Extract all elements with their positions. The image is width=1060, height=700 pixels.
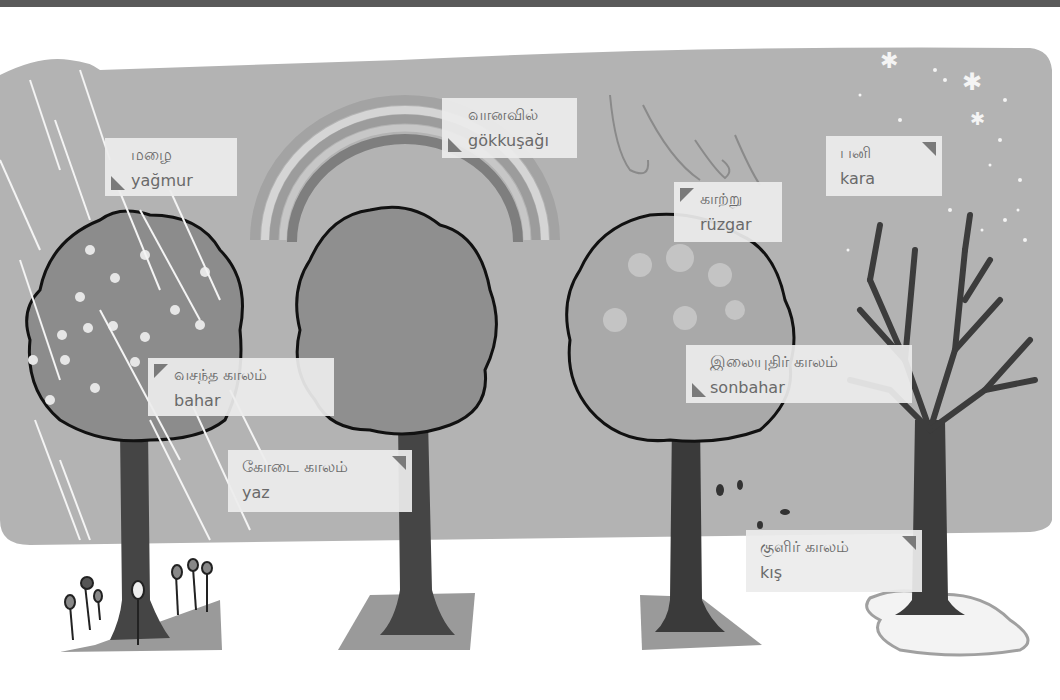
svg-text:✱: ✱	[962, 68, 982, 96]
label-pointer-top-right-icon	[392, 456, 406, 470]
label-pointer-bottom-left-icon	[692, 383, 706, 397]
label-tamil: வானவில்	[468, 102, 565, 128]
label-summer: கோடை காலம் yaz	[228, 450, 412, 512]
label-autumn: இலையுதிர் காலம் sonbahar	[686, 345, 912, 403]
label-pointer-bottom-left-icon	[111, 176, 125, 190]
label-tamil: காற்று	[700, 186, 770, 212]
label-wind: காற்று rüzgar	[674, 182, 782, 242]
label-tamil: வசந்த காலம்	[174, 362, 322, 388]
label-turkish: yaz	[242, 480, 400, 506]
label-snow: பனி kara	[826, 136, 942, 196]
label-pointer-top-left-icon	[154, 364, 168, 378]
label-tamil: குளிர் காலம்	[760, 534, 910, 560]
svg-text:✱: ✱	[880, 48, 898, 73]
label-tamil: கோடை காலம்	[242, 454, 400, 480]
canopy-autumn	[567, 214, 794, 441]
label-turkish: kara	[840, 166, 930, 192]
label-pointer-top-left-icon	[680, 188, 694, 202]
label-winter: குளிர் காலம் kış	[746, 530, 922, 592]
label-pointer-top-right-icon	[922, 142, 936, 156]
label-rain: மழை yağmur	[105, 138, 237, 196]
svg-text:✱: ✱	[970, 108, 985, 129]
label-tamil: பனி	[840, 140, 930, 166]
label-pointer-bottom-left-icon	[448, 138, 462, 152]
label-tamil: மழை	[131, 142, 225, 168]
label-turkish: sonbahar	[710, 375, 900, 401]
label-turkish: rüzgar	[700, 212, 770, 238]
label-rainbow: வானவில் gökkuşağı	[442, 98, 577, 158]
label-turkish: bahar	[174, 388, 322, 414]
label-turkish: yağmur	[131, 168, 225, 194]
label-turkish: gökkuşağı	[468, 128, 565, 154]
label-pointer-top-right-icon	[902, 536, 916, 550]
label-spring: வசந்த காலம் bahar	[148, 358, 334, 416]
label-turkish: kış	[760, 560, 910, 586]
label-tamil: இலையுதிர் காலம்	[710, 349, 900, 375]
